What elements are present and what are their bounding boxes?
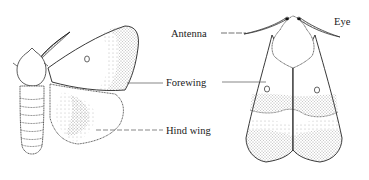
label-forewing: Forewing bbox=[166, 78, 206, 89]
eye-left bbox=[285, 18, 289, 21]
label-antenna: Antenna bbox=[171, 29, 207, 40]
eye-right bbox=[297, 18, 301, 21]
label-eye: Eye bbox=[334, 17, 350, 28]
thorax-left bbox=[17, 48, 46, 86]
moth-anatomy-diagram: Antenna Eye Forewing Hind wing bbox=[0, 0, 369, 180]
antenna-left-moth bbox=[40, 32, 70, 58]
right-moth bbox=[244, 16, 342, 162]
left-moth bbox=[13, 26, 138, 154]
wing-spot-left bbox=[264, 86, 269, 92]
label-hind-wing: Hind wing bbox=[166, 126, 211, 137]
moth-illustration bbox=[0, 0, 369, 180]
abdomen-left bbox=[20, 86, 44, 154]
wing-spot-right bbox=[314, 87, 319, 93]
